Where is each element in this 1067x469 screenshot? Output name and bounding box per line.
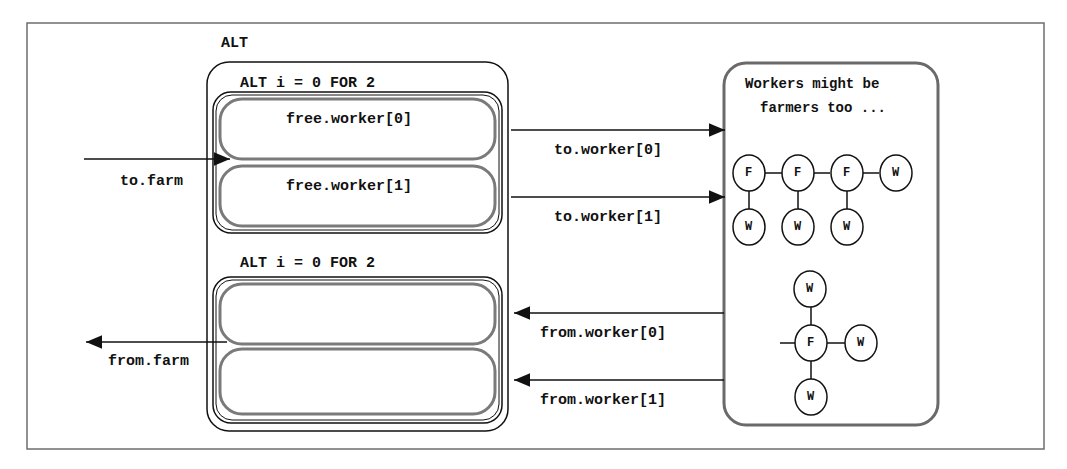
from-worker-1-label: from.worker[1] xyxy=(540,392,666,409)
chain-node-top-2: F xyxy=(843,166,850,180)
to-worker-1-label: to.worker[1] xyxy=(554,209,662,226)
diagram-canvas: ALT ALT i = 0 FOR 2 free.worker[0] free.… xyxy=(0,0,1067,469)
guard-label-free-worker-1: free.worker[1] xyxy=(286,178,412,195)
guard-label-free-worker-0: free.worker[0] xyxy=(286,111,412,128)
guard-free-worker-0 xyxy=(220,99,495,159)
note-line-2: farmers too ... xyxy=(760,100,886,116)
from-farm-label: from.farm xyxy=(108,353,189,370)
from-worker-0-label: from.worker[0] xyxy=(540,325,666,342)
star-node-right: W xyxy=(857,336,864,350)
chain-node-top-1: F xyxy=(794,166,801,180)
chain-node-bottom-2: W xyxy=(843,220,850,234)
note-line-1: Workers might be xyxy=(745,76,879,92)
star-node-bottom: W xyxy=(807,390,814,404)
farm-worker-diagram xyxy=(0,0,1067,469)
alt-label: ALT xyxy=(221,35,248,52)
to-worker-0-label: to.worker[0] xyxy=(554,142,662,159)
chain-tree xyxy=(733,155,912,245)
star-node-center: F xyxy=(807,336,814,350)
guard-from-worker-1 xyxy=(220,349,495,414)
chain-node-bottom-0: W xyxy=(745,220,752,234)
outer-frame xyxy=(27,23,1044,449)
chain-node-top-3: W xyxy=(892,166,899,180)
chain-node-bottom-1: W xyxy=(794,220,801,234)
top-group-label: ALT i = 0 FOR 2 xyxy=(240,75,375,92)
chain-node-top-0: F xyxy=(745,166,752,180)
guard-from-worker-0 xyxy=(220,284,495,344)
star-node-top: W xyxy=(806,282,813,296)
bottom-group-label: ALT i = 0 FOR 2 xyxy=(240,255,375,272)
guard-free-worker-1 xyxy=(220,166,495,226)
to-farm-label: to.farm xyxy=(120,173,183,190)
